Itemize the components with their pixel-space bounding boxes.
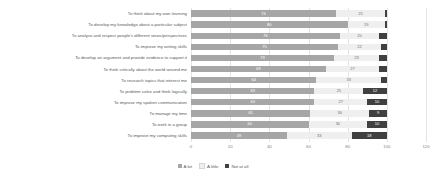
bar-segment[interactable]: 20	[340, 33, 379, 39]
stacked-bar[interactable]: 7522	[191, 44, 426, 50]
bar-segment[interactable]: 10	[367, 121, 387, 127]
bar-segment[interactable]: 74	[191, 10, 336, 16]
stacked-bar[interactable]: 7620	[191, 33, 426, 39]
segment-value: 27	[339, 100, 343, 104]
gridline	[426, 8, 427, 142]
x-axis-tick: 60	[306, 144, 311, 149]
segment-value: 25	[337, 89, 341, 93]
bar-row: To improve my computing skills493318	[0, 130, 426, 141]
segment-value: 22	[357, 45, 361, 49]
bar-segment[interactable]: 61	[191, 110, 310, 116]
legend-label: Not at all	[231, 164, 248, 169]
segment-value: 19	[364, 23, 368, 27]
x-axis-tick: 20	[228, 144, 233, 149]
bar-segment[interactable]: 10	[367, 99, 387, 105]
bar-segment[interactable]	[381, 77, 387, 83]
bar-segment[interactable]: 18	[352, 132, 387, 138]
bar-segment[interactable]: 27	[314, 99, 367, 105]
segment-value: 63	[250, 89, 254, 93]
stacked-bar[interactable]: 6433	[191, 77, 426, 83]
category-label: To improve my computing skills	[0, 133, 191, 138]
category-label: To work in a group	[0, 122, 191, 127]
stacked-bar[interactable]: 493318	[191, 132, 426, 138]
bar-segment[interactable]: 22	[338, 44, 381, 50]
stacked-bar[interactable]: 7425	[191, 10, 426, 16]
segment-value: 64	[251, 78, 255, 82]
legend: A lotA littleNot at all	[0, 163, 426, 169]
stacked-bar[interactable]: 7323	[191, 55, 426, 61]
bar-segment[interactable]: 25	[314, 88, 363, 94]
x-axis: 020406080100120	[191, 144, 426, 154]
segment-value: 10	[375, 122, 379, 126]
stacked-bar[interactable]: 8019	[191, 21, 426, 27]
bar-segment[interactable]: 30	[310, 110, 369, 116]
bar-track-area: 6927	[191, 63, 426, 74]
segment-value: 10	[375, 100, 379, 104]
bar-segment[interactable]	[385, 10, 387, 16]
bar-segment[interactable]: 33	[287, 132, 352, 138]
bar-track-area: 493318	[191, 130, 426, 141]
bar-segment[interactable]: 75	[191, 44, 338, 50]
bar-segment[interactable]: 33	[316, 77, 381, 83]
legend-item[interactable]: Not at all	[225, 164, 248, 169]
category-label: To improve my writing skills	[0, 44, 191, 49]
stacked-bar[interactable]: 61309	[191, 110, 426, 116]
bar-segment[interactable]	[381, 44, 387, 50]
bar-row: To problem solve and think logically6325…	[0, 86, 426, 97]
bar-segment[interactable]: 25	[336, 10, 385, 16]
legend-label: A little	[207, 164, 218, 169]
bar-row: To develop my knowledge about a particul…	[0, 19, 426, 30]
bar-segment[interactable]: 23	[334, 55, 379, 61]
bar-segment[interactable]: 63	[191, 88, 314, 94]
stacked-bar[interactable]: 632710	[191, 99, 426, 105]
segment-value: 27	[350, 67, 354, 71]
legend-item[interactable]: A little	[199, 163, 218, 169]
plot-area: To think about my own learning7425To dev…	[0, 8, 426, 142]
segment-value: 76	[263, 34, 267, 38]
bar-track-area: 7425	[191, 8, 426, 19]
bar-segment[interactable]: 30	[309, 121, 368, 127]
category-label: To manage my time	[0, 111, 191, 116]
stacked-bar[interactable]: 6927	[191, 66, 426, 72]
segment-value: 12	[373, 89, 377, 93]
segment-value: 20	[357, 34, 361, 38]
segment-value: 63	[250, 100, 254, 104]
bar-track-area: 632710	[191, 97, 426, 108]
segment-value: 33	[317, 134, 321, 138]
legend-swatch-icon	[178, 164, 182, 168]
segment-value: 75	[262, 45, 266, 49]
bar-row: To improve my writing skills7522	[0, 41, 426, 52]
stacked-bar[interactable]: 632512	[191, 88, 426, 94]
category-label: To improve my spoken communication	[0, 100, 191, 105]
segment-value: 69	[256, 67, 260, 71]
bar-segment[interactable]	[385, 21, 387, 27]
bar-segment[interactable]	[379, 66, 387, 72]
bar-track-area: 632512	[191, 86, 426, 97]
bar-segment[interactable]: 12	[363, 88, 387, 94]
bar-row: To analyse and respect people's differen…	[0, 30, 426, 41]
bar-segment[interactable]	[379, 55, 387, 61]
bar-segment[interactable]: 69	[191, 66, 326, 72]
bar-segment[interactable]: 19	[348, 21, 385, 27]
legend-item[interactable]: A lot	[178, 164, 192, 169]
bar-row: To think about my own learning7425	[0, 8, 426, 19]
segment-value: 60	[248, 122, 252, 126]
bar-track-area: 61309	[191, 108, 426, 119]
bar-segment[interactable]: 9	[369, 110, 387, 116]
bar-row: To think critically about the world arou…	[0, 63, 426, 74]
category-label: To research topics that interest me	[0, 78, 191, 83]
bar-segment[interactable]: 64	[191, 77, 316, 83]
bar-segment[interactable]: 76	[191, 33, 340, 39]
bar-segment[interactable]: 60	[191, 121, 309, 127]
bar-segment[interactable]: 63	[191, 99, 314, 105]
bar-segment[interactable]: 27	[326, 66, 379, 72]
bar-segment[interactable]	[379, 33, 387, 39]
bar-row: To develop an argument and provide evide…	[0, 52, 426, 63]
stacked-bar[interactable]: 603010	[191, 121, 426, 127]
legend-label: A lot	[184, 164, 192, 169]
bar-segment[interactable]: 49	[191, 132, 287, 138]
bar-segment[interactable]: 80	[191, 21, 348, 27]
bar-segment[interactable]: 73	[191, 55, 334, 61]
segment-value: 30	[336, 122, 340, 126]
